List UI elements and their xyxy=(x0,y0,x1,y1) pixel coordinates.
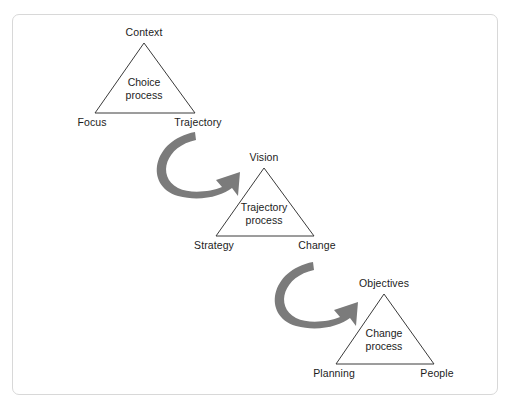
label-change-apex: Objectives xyxy=(359,277,409,290)
label-trajectory-inner: Trajectory process xyxy=(241,201,287,227)
label-trajectory-apex: Vision xyxy=(249,151,278,164)
label-change-inner-line2: process xyxy=(366,340,403,353)
label-choice-inner: Choice process xyxy=(126,76,163,102)
label-choice-inner-line1: Choice xyxy=(126,76,163,89)
label-change-bottom-left: Planning xyxy=(313,367,355,380)
label-trajectory-bottom-right: Change xyxy=(298,239,335,252)
arrow-trajectory-to-change-icon xyxy=(275,262,358,328)
label-change-bottom-right: People xyxy=(420,367,453,380)
label-choice-inner-line2: process xyxy=(126,89,163,102)
label-change-inner: Change process xyxy=(366,327,403,353)
label-choice-apex: Context xyxy=(126,26,163,39)
label-trajectory-inner-line1: Trajectory xyxy=(241,201,287,214)
label-choice-bottom-left: Focus xyxy=(77,116,106,129)
arrow-choice-to-trajectory-icon xyxy=(157,132,240,198)
label-change-inner-line1: Change xyxy=(366,327,403,340)
label-choice-bottom-right: Trajectory xyxy=(174,116,221,129)
label-trajectory-bottom-left: Strategy xyxy=(194,239,234,252)
label-trajectory-inner-line2: process xyxy=(241,214,287,227)
